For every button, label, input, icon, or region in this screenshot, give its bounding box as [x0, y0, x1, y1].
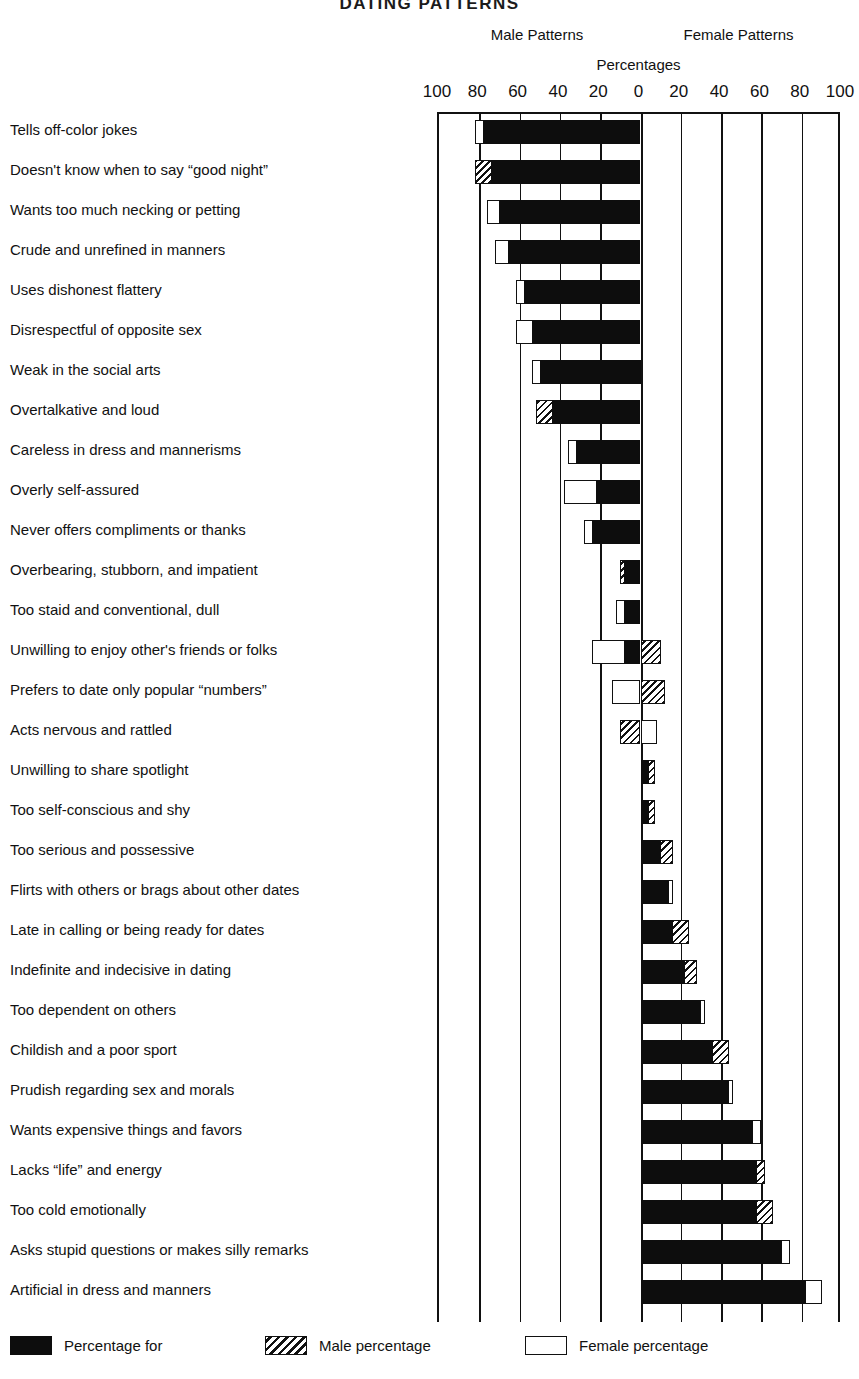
bar-segment-male: [620, 720, 640, 744]
bar-segment-both: [483, 120, 640, 144]
category-label: Late in calling or being ready for dates: [10, 922, 264, 938]
x-axis-tick-40-3: 40: [536, 82, 580, 102]
bar-segment-both: [641, 1080, 730, 1104]
bar-row: [439, 840, 838, 864]
category-label: Disrespectful of opposite sex: [10, 322, 202, 338]
bar-row: [439, 600, 838, 624]
legend: Percentage for Male percentage Female pe…: [0, 1336, 859, 1376]
bar-segment-both: [508, 240, 641, 264]
bar-segment-both: [596, 480, 640, 504]
bar-segment-both: [624, 600, 640, 624]
bar-segment-male: [641, 640, 661, 664]
plot-area: [437, 112, 840, 1322]
bar-segment-both: [641, 1120, 754, 1144]
legend-swatch-both-icon: [10, 1336, 52, 1355]
category-label: Unwilling to share spotlight: [10, 762, 188, 778]
legend-item-male: Male percentage: [265, 1336, 431, 1355]
bar-row: [439, 880, 838, 904]
male-patterns-header: Male Patterns: [437, 26, 637, 43]
legend-swatch-male-icon: [265, 1336, 307, 1355]
bar-row: [439, 800, 838, 824]
x-axis-tick-40-7: 40: [697, 82, 741, 102]
page-title: DATING PATTERNS: [0, 0, 859, 14]
percentages-axis-title: Percentages: [437, 56, 840, 73]
x-axis-tick-20-6: 20: [657, 82, 701, 102]
category-label: Flirts with others or brags about other …: [10, 882, 299, 898]
bar-segment-both: [641, 880, 669, 904]
category-label: Doesn't know when to say “good night”: [10, 162, 268, 178]
bar-segment-both: [491, 160, 640, 184]
category-label: Overtalkative and loud: [10, 402, 159, 418]
category-label: Wants too much necking or petting: [10, 202, 240, 218]
category-label: Uses dishonest flattery: [10, 282, 162, 298]
bar-segment-both: [524, 280, 641, 304]
x-axis-tick-labels: 10080604020020406080100: [0, 82, 859, 104]
category-label: Too self-conscious and shy: [10, 802, 190, 818]
female-patterns-header: Female Patterns: [637, 26, 840, 43]
category-label: Wants expensive things and favors: [10, 1122, 242, 1138]
bar-row: [439, 1080, 838, 1104]
category-label: Too serious and possessive: [10, 842, 194, 858]
bar-segment-both: [641, 1040, 714, 1064]
bar-segment-both: [641, 1240, 782, 1264]
bar-segment-both: [641, 1280, 806, 1304]
bar-row: [439, 160, 838, 184]
bar-row: [439, 720, 838, 744]
x-axis-tick-60-8: 60: [737, 82, 781, 102]
category-label: Too dependent on others: [10, 1002, 176, 1018]
bar-segment-both: [624, 640, 640, 664]
category-label: Asks stupid questions or makes silly rem…: [10, 1242, 308, 1258]
bar-segment-both: [641, 1200, 758, 1224]
category-label: Too staid and conventional, dull: [10, 602, 219, 618]
bar-segment-both: [499, 200, 640, 224]
x-axis-tick-0-5: 0: [617, 82, 661, 102]
bar-segment-both: [641, 760, 649, 784]
bar-row: [439, 440, 838, 464]
bar-segment-male: [641, 680, 665, 704]
category-label: Overly self-assured: [10, 482, 139, 498]
bar-row: [439, 560, 838, 584]
category-label: Prudish regarding sex and morals: [10, 1082, 234, 1098]
bar-row: [439, 1160, 838, 1184]
x-axis-tick-100-0: 100: [415, 82, 459, 102]
legend-label-male: Male percentage: [319, 1337, 431, 1354]
category-label: Overbearing, stubborn, and impatient: [10, 562, 258, 578]
category-label: Childish and a poor sport: [10, 1042, 177, 1058]
legend-swatch-female-icon: [525, 1336, 567, 1355]
bar-segment-both: [532, 320, 641, 344]
category-label: Acts nervous and rattled: [10, 722, 172, 738]
bar-segment-both: [641, 920, 673, 944]
legend-item-female: Female percentage: [525, 1336, 708, 1355]
bar-segment-both: [641, 1000, 701, 1024]
bar-row: [439, 280, 838, 304]
bar-segment-both: [540, 360, 641, 384]
x-axis-tick-80-1: 80: [455, 82, 499, 102]
category-label: Careless in dress and mannerisms: [10, 442, 241, 458]
bar-row: [439, 200, 838, 224]
bar-row: [439, 760, 838, 784]
category-label: Weak in the social arts: [10, 362, 161, 378]
category-label: Too cold emotionally: [10, 1202, 146, 1218]
bar-segment-both: [641, 840, 661, 864]
category-label: Prefers to date only popular “numbers”: [10, 682, 267, 698]
category-label: Indefinite and indecisive in dating: [10, 962, 231, 978]
x-axis-tick-20-4: 20: [576, 82, 620, 102]
bar-segment-both: [641, 800, 649, 824]
bar-row: [439, 320, 838, 344]
bar-row: [439, 640, 838, 664]
bar-segment-female: [612, 680, 640, 704]
bar-row: [439, 400, 838, 424]
bar-row: [439, 920, 838, 944]
category-label: Unwilling to enjoy other's friends or fo…: [10, 642, 277, 658]
bar-row: [439, 1240, 838, 1264]
bar-row: [439, 960, 838, 984]
x-axis-tick-100-10: 100: [818, 82, 859, 102]
legend-label-female: Female percentage: [579, 1337, 708, 1354]
bar-segment-both: [552, 400, 641, 424]
legend-item-both: Percentage for: [10, 1336, 162, 1355]
bar-row: [439, 360, 838, 384]
bar-row: [439, 1000, 838, 1024]
bar-row: [439, 1200, 838, 1224]
bar-row: [439, 1280, 838, 1304]
bar-row: [439, 1120, 838, 1144]
